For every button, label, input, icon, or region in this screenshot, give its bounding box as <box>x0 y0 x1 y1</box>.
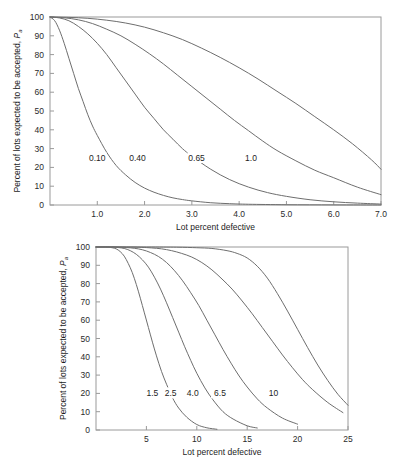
y-axis-title: Percent of lots expected to be accepted,… <box>12 29 23 193</box>
curve-label-6.5: 6.5 <box>214 388 226 398</box>
y-tick-label: 100 <box>30 12 44 22</box>
curve-label-10: 10 <box>269 388 279 398</box>
y-tick-label: 80 <box>35 50 45 60</box>
x-tick-label: 25 <box>343 434 353 444</box>
curve-label-0.10: 0.10 <box>89 153 106 163</box>
x-tick-label: 6.0 <box>328 209 340 219</box>
x-tick-label: 2.0 <box>139 209 151 219</box>
y-tick-label: 70 <box>35 68 45 78</box>
chart-top-chart: 01020304050607080901001.02.03.04.05.06.0… <box>12 12 387 232</box>
y-tick-label: 20 <box>81 388 91 398</box>
x-tick-label: 20 <box>293 434 303 444</box>
curve-0.65 <box>50 17 381 195</box>
curve-1.0 <box>50 17 381 169</box>
y-tick-label: 50 <box>81 334 91 344</box>
y-tick-label: 20 <box>35 162 45 172</box>
y-tick-label: 10 <box>81 407 91 417</box>
x-tick-label: 5.0 <box>281 209 293 219</box>
y-tick-label: 30 <box>35 144 45 154</box>
plot-frame <box>96 247 348 430</box>
x-tick-label: 1.0 <box>91 209 103 219</box>
y-tick-label: 40 <box>35 125 45 135</box>
x-tick-label: 10 <box>192 434 202 444</box>
x-tick-label: 3.0 <box>186 209 198 219</box>
y-tick-label: 70 <box>81 297 91 307</box>
y-tick-label: 40 <box>81 352 91 362</box>
curve-label-1.0: 1.0 <box>245 153 257 163</box>
curve-label-1.5: 1.5 <box>147 388 159 398</box>
curve-10 <box>96 247 348 405</box>
x-axis-title: Lot percent defective <box>176 222 255 232</box>
y-axis-title: Percent of lots expected to be accepted,… <box>58 256 69 420</box>
y-tick-label: 100 <box>76 242 90 252</box>
y-tick-label: 60 <box>35 87 45 97</box>
y-tick-label: 0 <box>85 425 90 435</box>
x-tick-label: 5 <box>144 434 149 444</box>
curve-label-4.0: 4.0 <box>187 388 199 398</box>
y-tick-label: 90 <box>35 31 45 41</box>
curve-0.40 <box>50 17 381 204</box>
curve-2.5 <box>96 247 257 428</box>
y-tick-label: 30 <box>81 370 91 380</box>
curve-1.5 <box>96 247 217 429</box>
curve-label-0.65: 0.65 <box>188 153 205 163</box>
y-tick-label: 60 <box>81 315 91 325</box>
y-tick-label: 10 <box>35 181 45 191</box>
y-tick-label: 50 <box>35 106 45 116</box>
curve-label-2.5: 2.5 <box>165 388 177 398</box>
x-axis-title: Lot percent defective <box>183 447 262 457</box>
figure-operating-characteristic-curves: 01020304050607080901001.02.03.04.05.06.0… <box>0 0 394 468</box>
x-tick-label: 4.0 <box>233 209 245 219</box>
chart-bottom-chart: 0102030405060708090100510152025Lot perce… <box>58 242 353 457</box>
curve-label-0.40: 0.40 <box>129 153 146 163</box>
figure-canvas: 01020304050607080901001.02.03.04.05.06.0… <box>0 0 394 468</box>
y-tick-label: 80 <box>81 279 91 289</box>
y-tick-label: 0 <box>39 200 44 210</box>
x-tick-label: 15 <box>242 434 252 444</box>
x-tick-label: 7.0 <box>375 209 387 219</box>
y-tick-label: 90 <box>81 260 91 270</box>
